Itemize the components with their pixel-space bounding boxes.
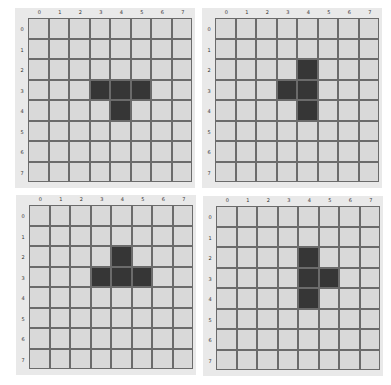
grid-cell bbox=[111, 60, 130, 79]
grid-cell bbox=[258, 228, 277, 247]
grid-cell bbox=[217, 228, 236, 247]
grid-cell bbox=[217, 248, 236, 267]
grid-cell bbox=[339, 101, 358, 120]
grid-cell bbox=[298, 163, 317, 182]
row-label: 2 bbox=[19, 247, 27, 268]
grid-panel-top-right: 0123456701234567 bbox=[202, 8, 382, 188]
grid-cell bbox=[153, 227, 172, 246]
grid-cell bbox=[279, 289, 298, 308]
grid-cell bbox=[340, 289, 359, 308]
grid-cell bbox=[339, 163, 358, 182]
grid-cell bbox=[29, 40, 48, 59]
grid-cell bbox=[278, 122, 297, 141]
grid-cell bbox=[92, 329, 111, 348]
row-label: 0 bbox=[205, 19, 213, 40]
column-label: 3 bbox=[278, 9, 299, 15]
grid-cell bbox=[51, 350, 70, 369]
grid-cell bbox=[153, 350, 172, 369]
grid-cell bbox=[92, 227, 111, 246]
grid-cell bbox=[30, 268, 49, 287]
grid-cell bbox=[217, 207, 236, 226]
grid-cell bbox=[71, 329, 90, 348]
grid-cell bbox=[133, 350, 152, 369]
grid-cell bbox=[319, 60, 338, 79]
grid-cell bbox=[92, 350, 111, 369]
row-label: 0 bbox=[18, 19, 26, 40]
grid-cell bbox=[258, 351, 277, 370]
column-labels: 01234567 bbox=[30, 196, 194, 202]
row-label: 4 bbox=[206, 289, 214, 310]
grid-cell bbox=[153, 247, 172, 266]
column-label: 2 bbox=[258, 197, 279, 203]
grid-cell bbox=[339, 19, 358, 38]
grid-cell bbox=[173, 142, 192, 161]
grid-cell bbox=[91, 122, 110, 141]
grid-cell bbox=[71, 227, 90, 246]
grid-cell bbox=[51, 247, 70, 266]
grid-cell bbox=[111, 142, 130, 161]
row-label: 7 bbox=[19, 350, 27, 371]
row-label: 2 bbox=[18, 60, 26, 81]
grid-cell bbox=[71, 309, 90, 328]
grid-cell bbox=[360, 163, 379, 182]
grid-cell bbox=[91, 19, 110, 38]
grid-cell bbox=[51, 268, 70, 287]
grid-cell bbox=[298, 142, 317, 161]
column-label: 6 bbox=[339, 9, 360, 15]
column-label: 6 bbox=[152, 9, 173, 15]
grid-cell bbox=[238, 248, 257, 267]
grid-cell bbox=[237, 81, 256, 100]
grid-cell bbox=[216, 163, 235, 182]
grid-cell bbox=[279, 310, 298, 329]
grid-cell-filled bbox=[112, 247, 131, 266]
grid-cell bbox=[30, 227, 49, 246]
grid-cell bbox=[257, 19, 276, 38]
grid-cell bbox=[257, 122, 276, 141]
grid-cell bbox=[361, 351, 380, 370]
grid-cell bbox=[319, 163, 338, 182]
grid-cell bbox=[51, 309, 70, 328]
grid-cell-filled bbox=[298, 101, 317, 120]
grid-cell bbox=[298, 19, 317, 38]
row-labels: 01234567 bbox=[18, 19, 26, 183]
grid-cell bbox=[319, 122, 338, 141]
grid-cell bbox=[299, 330, 318, 349]
grid-cell bbox=[237, 163, 256, 182]
grid-cell bbox=[299, 351, 318, 370]
cell-grid bbox=[216, 206, 380, 370]
grid-cell bbox=[30, 329, 49, 348]
grid-cell bbox=[133, 227, 152, 246]
row-label: 1 bbox=[19, 227, 27, 248]
grid-cell bbox=[217, 269, 236, 288]
grid-cell bbox=[216, 142, 235, 161]
grid-cell bbox=[91, 60, 110, 79]
grid-cell bbox=[132, 40, 151, 59]
grid-cell bbox=[91, 163, 110, 182]
row-label: 1 bbox=[205, 40, 213, 61]
row-labels: 01234567 bbox=[206, 207, 214, 371]
grid-cell bbox=[237, 60, 256, 79]
grid-cell bbox=[340, 248, 359, 267]
grid-cell bbox=[319, 19, 338, 38]
column-label: 0 bbox=[30, 196, 51, 202]
grid-cell bbox=[51, 288, 70, 307]
grid-cell bbox=[50, 40, 69, 59]
grid-cell bbox=[238, 207, 257, 226]
row-label: 4 bbox=[18, 101, 26, 122]
grid-cell bbox=[279, 330, 298, 349]
grid-cell bbox=[29, 101, 48, 120]
grid-cell bbox=[51, 206, 70, 225]
grid-cell bbox=[258, 289, 277, 308]
grid-cell bbox=[91, 142, 110, 161]
column-label: 1 bbox=[50, 9, 71, 15]
grid-cell bbox=[133, 309, 152, 328]
grid-cell bbox=[360, 142, 379, 161]
grid-cell bbox=[237, 40, 256, 59]
grid-cell bbox=[360, 101, 379, 120]
grid-cell bbox=[152, 142, 171, 161]
row-label: 6 bbox=[19, 329, 27, 350]
grid-cell bbox=[174, 268, 193, 287]
row-label: 7 bbox=[206, 351, 214, 372]
row-label: 6 bbox=[206, 330, 214, 351]
grid-cell bbox=[279, 269, 298, 288]
